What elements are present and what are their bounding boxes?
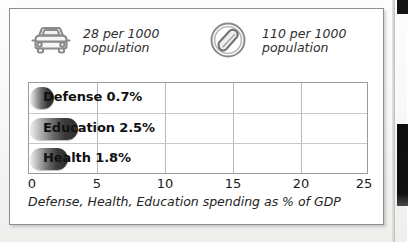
legend-label-cars: 28 per 1000 population: [83, 27, 159, 55]
legend-item-cars: 28 per 1000 population: [28, 19, 159, 63]
x-tick-20: 20: [293, 176, 310, 191]
legend-unit-cars: population: [83, 41, 159, 55]
legend-unit-telephones: population: [262, 41, 346, 55]
x-tick-25: 25: [356, 176, 373, 191]
bar-row-defense: Defense 0.7%: [29, 83, 367, 113]
chart-caption: Defense, Health, Education spending as %…: [28, 194, 373, 209]
legend-item-telephones: 110 per 1000 population: [207, 19, 346, 63]
bar-label-health: Health 1.8%: [43, 150, 131, 165]
legend-value-telephones: 110 per 1000: [262, 26, 346, 41]
car-icon: [28, 19, 74, 63]
x-tick-15: 15: [225, 176, 242, 191]
bar-row-education: Education 2.5%: [29, 114, 367, 144]
legend: 28 per 1000 population 110 per 1000 popu…: [10, 13, 385, 71]
scan-artifact-middle: [397, 124, 408, 206]
scan-artifact-top: [397, 0, 408, 14]
bar-label-education: Education 2.5%: [43, 120, 155, 135]
telephone-icon: [207, 19, 253, 63]
x-tick-0: 0: [28, 176, 36, 191]
bar-label-defense: Defense 0.7%: [43, 89, 142, 104]
page-edge-strip: [392, 0, 395, 242]
plot-area: Defense 0.7% Education 2.5% Health 1.8%: [28, 82, 368, 174]
bar-row-health: Health 1.8%: [29, 144, 367, 174]
x-tick-10: 10: [157, 176, 174, 191]
legend-label-telephones: 110 per 1000 population: [262, 27, 346, 55]
legend-value-cars: 28 per 1000: [83, 26, 159, 41]
x-axis: 0 5 10 15 20 25: [28, 175, 368, 193]
infographic-card: 28 per 1000 population 110 per 1000 popu…: [9, 8, 384, 225]
bar-chart: Defense 0.7% Education 2.5% Health 1.8% …: [28, 82, 368, 214]
x-tick-5: 5: [93, 176, 101, 191]
